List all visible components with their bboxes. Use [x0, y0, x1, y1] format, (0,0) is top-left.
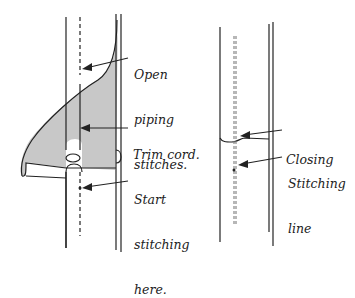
label-stitching-line: Stitching line — [288, 146, 346, 251]
arrow-closing — [240, 130, 282, 139]
arrow-stitching-line — [238, 157, 282, 168]
trim-cord — [66, 154, 80, 162]
label-line: line — [288, 221, 346, 236]
label-line: Trim cord. — [133, 147, 200, 162]
label-line: Start — [134, 192, 190, 207]
label-line: here. — [134, 282, 190, 297]
left-figure — [21, 14, 128, 252]
label-start-stitching-here: Start stitching here. — [134, 162, 190, 298]
right-figure — [220, 22, 282, 246]
label-line: Open — [134, 67, 187, 82]
shaded-seam-allowance — [21, 18, 118, 176]
closing-edge — [220, 138, 269, 142]
label-line: Stitching — [288, 176, 346, 191]
label-line: stitching — [134, 237, 190, 252]
